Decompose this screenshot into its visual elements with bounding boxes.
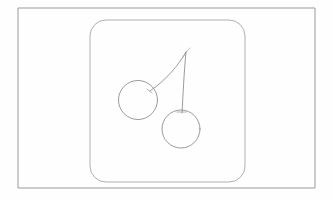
rounded-rectangle-panel [90,20,245,182]
left-cherry-stem [150,52,186,91]
right-cherry-circle [162,110,200,148]
left-cherry-circle [119,81,158,120]
stem-tip-flick [183,48,190,57]
cherries-illustration [0,0,333,200]
outer-rectangle-border [18,8,315,188]
right-cherry-stem [182,52,186,113]
drawing-canvas [0,0,333,200]
